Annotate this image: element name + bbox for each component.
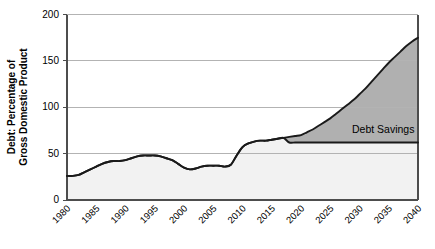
- x-tick-label-2020: 2020: [284, 203, 307, 226]
- x-tick-label-1990: 1990: [108, 203, 131, 226]
- debt-chart: 050100150200 198019851990199520002005201…: [0, 0, 435, 249]
- x-tick-label-1985: 1985: [79, 203, 102, 226]
- chart-canvas: 050100150200 198019851990199520002005201…: [0, 0, 435, 249]
- x-tick-label-2005: 2005: [196, 203, 219, 226]
- y-tick-label-150: 150: [42, 55, 59, 66]
- y-axis-title: Debt: Percentage of Gross Domestic Produ…: [6, 48, 29, 166]
- y-tick-label-100: 100: [42, 101, 59, 112]
- x-tick-label-2010: 2010: [225, 203, 248, 226]
- x-axis-ticks: 1980198519901995200020052010201520202025…: [50, 203, 424, 226]
- y-tick-label-200: 200: [42, 9, 59, 20]
- y-axis-ticks: 050100150200: [42, 9, 67, 206]
- x-tick-label-2035: 2035: [371, 203, 394, 226]
- x-tick-label-2015: 2015: [254, 203, 277, 226]
- x-tick-label-2030: 2030: [342, 203, 365, 226]
- x-tick-label-2000: 2000: [167, 203, 190, 226]
- y-axis-title-line2: Gross Domestic Product: [18, 48, 29, 166]
- y-tick-label-0: 0: [53, 194, 59, 205]
- x-tick-label-1980: 1980: [50, 203, 73, 226]
- y-axis-title-line1: Debt: Percentage of: [6, 59, 17, 154]
- x-tick-label-2025: 2025: [313, 203, 336, 226]
- x-tick-label-2040: 2040: [401, 203, 424, 226]
- debt-savings-label: Debt Savings: [352, 123, 414, 135]
- y-tick-label-50: 50: [48, 148, 60, 159]
- x-tick-label-1995: 1995: [137, 203, 160, 226]
